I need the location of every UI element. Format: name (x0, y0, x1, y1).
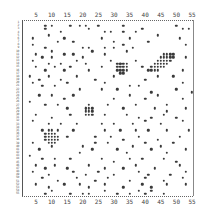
data-point (103, 47, 105, 49)
cluster-point (163, 63, 165, 65)
data-point (188, 129, 190, 131)
data-point (157, 139, 159, 141)
cluster-point (166, 63, 168, 65)
data-point (57, 180, 59, 182)
cluster-point (122, 63, 124, 65)
cluster-point (50, 142, 52, 144)
cluster-point (169, 59, 171, 61)
data-point (32, 170, 34, 172)
top-tick-35: 35 (126, 12, 133, 18)
data-point (103, 183, 105, 185)
top-tick-30: 30 (110, 12, 117, 18)
data-point (63, 183, 65, 185)
data-point (85, 63, 87, 65)
data-point (138, 136, 140, 138)
data-point (66, 136, 68, 138)
data-point (47, 123, 49, 125)
data-point (60, 31, 62, 33)
data-point (88, 69, 90, 71)
data-point (181, 177, 183, 179)
cluster-point (50, 145, 52, 147)
cluster-point (57, 139, 59, 141)
data-point (54, 158, 56, 160)
data-point (122, 139, 124, 141)
data-point (69, 66, 71, 68)
cluster-point (91, 107, 93, 109)
data-point (119, 129, 121, 131)
cluster-point (54, 142, 56, 144)
cluster-point (157, 59, 159, 61)
top-tick-55: 55 (188, 12, 195, 18)
data-point (135, 59, 137, 61)
data-point (72, 129, 74, 131)
data-point (88, 47, 90, 49)
data-point (29, 101, 31, 103)
bottom-tick-40: 40 (142, 199, 149, 205)
data-point (181, 120, 183, 122)
data-point (185, 44, 187, 46)
data-point (103, 113, 105, 115)
data-point (79, 183, 81, 185)
cluster-point (91, 113, 93, 115)
data-point (88, 186, 90, 188)
data-point (85, 25, 87, 27)
data-point (138, 116, 140, 118)
data-point (116, 88, 118, 90)
cluster-point (44, 139, 46, 141)
data-point (113, 161, 115, 163)
data-point (135, 31, 137, 33)
cluster-point (54, 136, 56, 138)
data-point (38, 78, 40, 80)
bottom-tick-45: 45 (157, 199, 164, 205)
cluster-point (163, 59, 165, 61)
cluster-point (47, 132, 49, 134)
data-point (157, 34, 159, 36)
data-point (54, 85, 56, 87)
data-point (144, 97, 146, 99)
data-point (128, 94, 130, 96)
data-point (172, 142, 174, 144)
data-point (41, 129, 43, 131)
data-point (141, 66, 143, 68)
data-point (32, 44, 34, 46)
data-point (35, 113, 37, 115)
data-point (75, 75, 77, 77)
data-point (135, 164, 137, 166)
data-point (175, 116, 177, 118)
data-point (113, 97, 115, 99)
data-point (100, 123, 102, 125)
cluster-point (163, 53, 165, 55)
data-point (72, 170, 74, 172)
data-point (178, 37, 180, 39)
data-point (66, 82, 68, 84)
cluster-point (85, 110, 87, 112)
cluster-point (47, 129, 49, 131)
right-axis-line (193, 20, 194, 196)
data-point (63, 53, 65, 55)
data-point (103, 31, 105, 33)
data-point (82, 47, 84, 49)
data-point (79, 151, 81, 153)
data-point (132, 123, 134, 125)
cluster-point (160, 63, 162, 65)
data-point (79, 25, 81, 27)
data-point (69, 158, 71, 160)
data-point (166, 129, 168, 131)
data-point (185, 170, 187, 172)
data-point (157, 75, 159, 77)
data-point (44, 104, 46, 106)
data-point (54, 66, 56, 68)
data-point (50, 94, 52, 96)
data-point (147, 174, 149, 176)
data-point (103, 53, 105, 55)
cluster-point (50, 129, 52, 131)
data-point (185, 107, 187, 109)
cluster-point (88, 113, 90, 115)
data-point (35, 53, 37, 55)
data-point (75, 177, 77, 179)
cluster-point (47, 136, 49, 138)
cluster-point (172, 56, 174, 58)
data-point (103, 167, 105, 169)
bottom-tick-10: 10 (48, 199, 55, 205)
data-point (66, 107, 68, 109)
